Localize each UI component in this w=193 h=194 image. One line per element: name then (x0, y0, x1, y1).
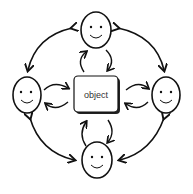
collaboration-diagram: object (0, 0, 193, 194)
smiley-face-icon (81, 12, 111, 48)
arc-bottom-left (30, 118, 74, 160)
arc-top-left (28, 28, 72, 70)
object-box: object (74, 76, 120, 114)
arc-bottom-right (120, 118, 164, 160)
arc-top-right (118, 28, 164, 70)
object-label: object (84, 90, 109, 100)
smiley-face-icon (13, 77, 41, 113)
smiley-face-icon (82, 142, 112, 178)
smiley-face-icon (152, 77, 180, 113)
